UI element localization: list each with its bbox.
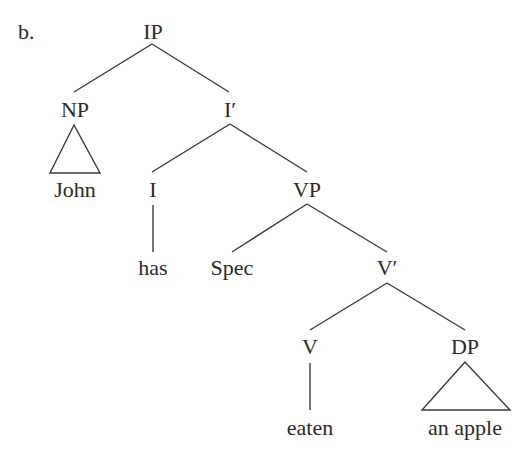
edge-ip-np xyxy=(74,44,152,92)
edge-vbar-dp xyxy=(387,283,465,330)
edge-ip-ibar xyxy=(152,44,229,92)
edge-vbar-v xyxy=(310,283,387,330)
node-i: I xyxy=(149,178,156,202)
edge-vp-spec xyxy=(232,204,307,252)
node-spec: Spec xyxy=(211,256,254,280)
node-dp: DP xyxy=(451,335,479,359)
np-triangle xyxy=(50,125,100,173)
leaf-has: has xyxy=(138,256,167,280)
leaf-john: John xyxy=(54,178,96,202)
node-v: V xyxy=(302,335,318,359)
leaf-eaten: eaten xyxy=(287,416,333,440)
node-vbar: V′ xyxy=(377,256,398,280)
edge-ibar-vp xyxy=(230,124,307,172)
dp-triangle xyxy=(422,362,510,410)
tree-edges xyxy=(0,0,532,471)
node-ibar: I′ xyxy=(224,98,236,122)
example-label: b. xyxy=(18,20,35,44)
node-vp: VP xyxy=(293,178,321,202)
node-ip: IP xyxy=(143,20,163,44)
leaf-an-apple: an apple xyxy=(428,416,502,440)
node-np: NP xyxy=(61,98,89,122)
edge-ibar-i xyxy=(152,124,230,172)
edge-vp-vbar xyxy=(307,204,387,252)
